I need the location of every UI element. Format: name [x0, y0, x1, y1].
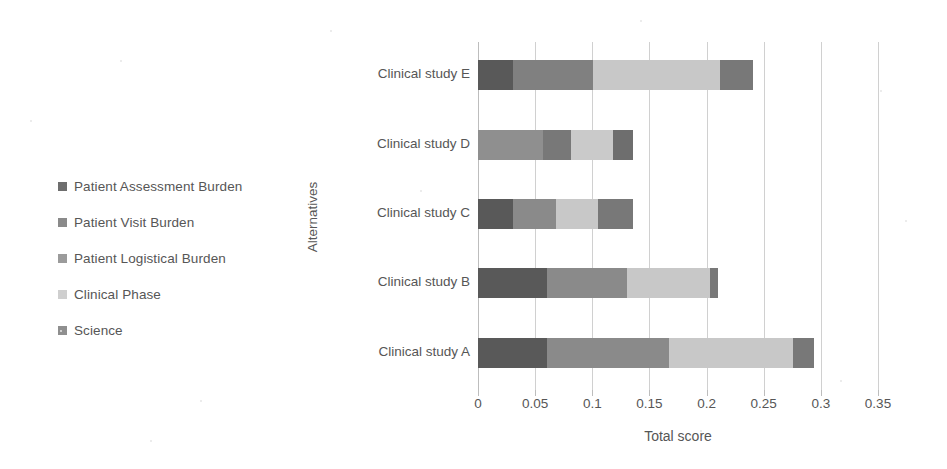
- legend-label: Patient Visit Burden: [74, 215, 194, 230]
- scan-speckle: [420, 190, 422, 192]
- bar-segment: [710, 268, 718, 298]
- bar-segment: [543, 130, 570, 160]
- scan-speckle: [120, 60, 122, 62]
- bar-segment: [513, 60, 593, 90]
- bar-segment: [513, 199, 555, 229]
- x-axis-tick-label: 0.15: [636, 396, 662, 411]
- legend-swatch-icon: [58, 182, 67, 191]
- y-axis-tick-labels: Clinical study EClinical study DClinical…: [310, 42, 470, 392]
- x-axis-tick-label: 0.25: [751, 396, 777, 411]
- legend-item: Patient Assessment Burden: [58, 168, 308, 204]
- gridline: [878, 42, 879, 392]
- bar-clinical-study-e: [478, 60, 753, 90]
- scan-speckle: [905, 220, 907, 222]
- bar-segment: [627, 268, 710, 298]
- x-axis-tick-label: 0: [474, 396, 482, 411]
- y-axis-tick-label: Clinical study D: [310, 136, 470, 151]
- bar-clinical-study-a: [478, 338, 814, 368]
- bar-clinical-study-d: [478, 130, 633, 160]
- bar-clinical-study-c: [478, 199, 633, 229]
- bar-clinical-study-b: [478, 268, 718, 298]
- chart-figure: Patient Assessment BurdenPatient Visit B…: [0, 0, 947, 469]
- gridline: [821, 42, 822, 392]
- legend-label: Patient Logistical Burden: [74, 251, 226, 266]
- bar-segment: [593, 60, 720, 90]
- bar-segment: [478, 199, 513, 229]
- bar-segment: [547, 338, 669, 368]
- chart-legend: Patient Assessment BurdenPatient Visit B…: [58, 168, 308, 348]
- scan-speckle: [30, 120, 32, 122]
- bar-segment: [478, 60, 513, 90]
- y-axis-tick-label: Clinical study E: [310, 66, 470, 81]
- legend-label: Science: [74, 323, 123, 338]
- scan-speckle: [150, 440, 152, 442]
- x-axis-tick-label: 0.35: [865, 396, 891, 411]
- legend-item: Patient Visit Burden: [58, 204, 308, 240]
- x-axis-tick-labels: 00.050.10.150.20.250.30.35: [478, 396, 878, 418]
- bar-segment: [556, 199, 598, 229]
- bar-segment: [669, 338, 794, 368]
- legend-swatch-icon: [58, 218, 67, 227]
- scan-speckle: [880, 90, 882, 92]
- legend-label: Clinical Phase: [74, 287, 161, 302]
- bar-segment: [613, 130, 634, 160]
- x-axis-tick-label: 0.3: [811, 396, 830, 411]
- scan-speckle: [330, 30, 332, 32]
- bar-segment: [478, 268, 547, 298]
- y-axis-tick-label: Clinical study A: [310, 344, 470, 359]
- bar-segment: [571, 130, 613, 160]
- scan-speckle: [700, 430, 702, 432]
- legend-item: Patient Logistical Burden: [58, 240, 308, 276]
- legend-item: Science: [58, 312, 308, 348]
- scan-speckle: [640, 20, 642, 22]
- legend-item: Clinical Phase: [58, 276, 308, 312]
- scan-speckle: [840, 380, 842, 382]
- scan-speckle: [200, 400, 202, 402]
- x-axis-title: Total score: [478, 428, 878, 444]
- y-axis-tick-label: Clinical study B: [310, 274, 470, 289]
- x-axis-tick-label: 0.2: [697, 396, 716, 411]
- legend-swatch-icon: [58, 290, 67, 299]
- legend-label: Patient Assessment Burden: [74, 179, 242, 194]
- y-axis-tick-label: Clinical study C: [310, 205, 470, 220]
- bar-segment: [478, 130, 543, 160]
- plot-area: [478, 42, 878, 392]
- bar-segment: [547, 268, 627, 298]
- bar-segment: [598, 199, 633, 229]
- x-axis-tick-label: 0.1: [583, 396, 602, 411]
- legend-swatch-icon: [58, 254, 67, 263]
- bar-segment: [793, 338, 814, 368]
- bar-segment: [720, 60, 753, 90]
- scan-speckle: [60, 330, 62, 332]
- x-axis-tick-label: 0.05: [522, 396, 548, 411]
- bar-segment: [478, 338, 547, 368]
